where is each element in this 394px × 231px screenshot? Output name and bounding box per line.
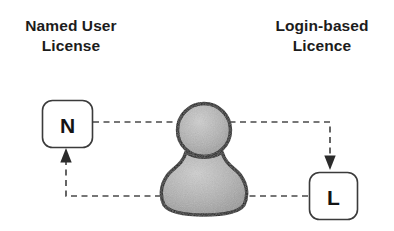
login-based-node-label: L [327, 186, 340, 209]
license-flow-diagram: N L [0, 0, 394, 231]
arrow-head-into-login-based-node [324, 156, 335, 171]
person-head [178, 104, 231, 157]
named-user-node[interactable]: N [43, 101, 93, 148]
person-body [161, 152, 246, 215]
arrow-head-into-named-user-node [60, 148, 71, 163]
named-user-node-label: N [60, 114, 75, 137]
user-person-icon [161, 104, 246, 216]
login-based-node[interactable]: L [310, 173, 358, 220]
diagram-screenshot: Named User License Login-based Licence [0, 0, 394, 231]
